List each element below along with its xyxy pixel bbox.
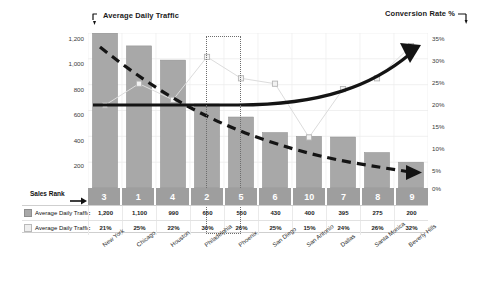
rank-cell: 7 <box>327 188 361 205</box>
legend-swatch-bar-icon <box>24 209 32 217</box>
table-cell: 650 <box>190 206 224 220</box>
x-axis-label-text: Dallas <box>340 233 357 248</box>
plot-area <box>88 33 428 188</box>
rank-cell: 5 <box>225 188 259 205</box>
legend-item-bar[interactable]: Average Daily Traffic <box>22 209 88 217</box>
table-cell: 1,200 <box>88 206 122 220</box>
y-right-tick-25: 25% <box>432 79 458 86</box>
table-cell: 1,100 <box>122 206 156 220</box>
x-axis-label: Chicago <box>122 236 156 284</box>
y-right-tick-30: 30% <box>432 57 458 64</box>
x-axis-label: Phoenix <box>224 236 258 284</box>
y-left-tick-600: 600 <box>52 111 84 118</box>
table-cell: 400 <box>292 206 326 220</box>
rank-cell: 4 <box>156 188 190 205</box>
table-cells-traffic: 1,2001,100990650550430400395275200 <box>88 206 428 220</box>
y-right-tick-15: 15% <box>432 123 458 130</box>
y-left-tick-1200: 1,200 <box>52 35 84 42</box>
y-left-tick-200: 200 <box>52 162 84 169</box>
right-axis-pointer-icon <box>456 10 472 29</box>
sales-rank-arrow-icon <box>70 192 88 202</box>
bar <box>330 137 355 188</box>
y-right-tick-5: 5% <box>432 167 458 174</box>
sales-rank-label: Sales Rank <box>30 190 65 197</box>
rank-cell: 1 <box>122 188 156 205</box>
table-cell: 275 <box>360 206 394 220</box>
x-axis-label: New York <box>88 236 122 284</box>
x-axis-label: Dallas <box>326 236 360 284</box>
x-axis-label: Beverly Hills <box>394 236 428 284</box>
x-axis-label: Santa Monica <box>360 236 394 284</box>
x-axis-label: Philadelphia <box>190 236 224 284</box>
bar <box>126 46 151 188</box>
sales-rank-row: 31425610789 <box>88 188 428 205</box>
rank-cell: 8 <box>362 188 396 205</box>
line-marker <box>272 81 277 86</box>
line-marker <box>136 81 141 86</box>
y-right-tick-20: 20% <box>432 101 458 108</box>
rank-cell: 6 <box>259 188 293 205</box>
bar <box>160 60 185 188</box>
y-left-tick-800: 800 <box>52 86 84 93</box>
table-row: Average Daily Traffic 1,2001,10099065055… <box>22 206 428 220</box>
bar <box>262 133 287 189</box>
rank-cell: 3 <box>88 188 122 205</box>
chart-canvas: Average Daily Traffic Conversion Rate % … <box>0 0 486 286</box>
table-cell: 200 <box>394 206 428 220</box>
rank-cell: 9 <box>396 188 428 205</box>
y-left-tick-1000: 1,000 <box>52 60 84 67</box>
table-cell: 395 <box>326 206 360 220</box>
right-axis-title: Conversion Rate % <box>385 9 455 18</box>
rank-cell: 10 <box>293 188 327 205</box>
legend-swatch-line-icon <box>24 224 32 232</box>
plot-svg <box>88 33 428 188</box>
x-axis-label: San Diego <box>258 236 292 284</box>
y-right-tick-10: 10% <box>432 145 458 152</box>
line-marker <box>306 135 311 140</box>
rank-cell: 2 <box>191 188 225 205</box>
table-cell: 430 <box>258 206 292 220</box>
y-right-tick-35: 35% <box>432 35 458 42</box>
y-right-tick-0: 0% <box>432 185 458 192</box>
x-axis-label: San Antonio <box>292 236 326 284</box>
line-marker <box>238 76 243 81</box>
line-marker <box>204 54 209 59</box>
bar <box>296 136 321 188</box>
x-axis-category-labels: New YorkChicagoHoustonPhiladelphiaPhoeni… <box>88 236 428 284</box>
bar <box>364 153 389 189</box>
legend-item-line[interactable]: Average Daily Traffic <box>22 224 88 232</box>
left-axis-title: Average Daily Traffic <box>103 11 179 20</box>
legend-label-bar: Average Daily Traffic <box>35 210 90 216</box>
table-cells-conversion: 21%25%22%30%26%25%15%24%26%32% <box>88 221 428 235</box>
table-cell: 550 <box>224 206 258 220</box>
y-left-tick-400: 400 <box>52 137 84 144</box>
x-axis-label: Houston <box>156 236 190 284</box>
legend-label-line: Average Daily Traffic <box>35 225 90 231</box>
table-cell: 990 <box>156 206 190 220</box>
